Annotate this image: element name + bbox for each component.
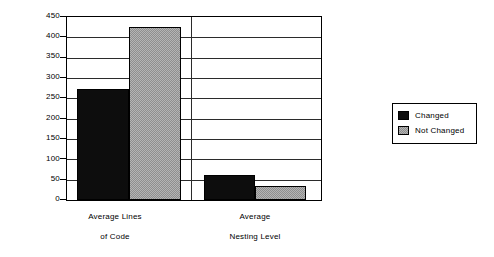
y-tick-label-250: 250	[2, 93, 60, 101]
legend-item-not-changed: Not Changed	[398, 123, 471, 138]
y-tick-label-0: 0	[2, 195, 60, 203]
x-category-label-average-nesting-level: Average Nesting Level	[190, 212, 320, 242]
x-category-label-line1: Average	[239, 212, 270, 221]
legend-item-changed: Changed	[398, 108, 471, 123]
legend: Changed Not Changed	[392, 103, 477, 144]
x-category-label-average-lines-of-code: Average Lines of Code	[50, 212, 180, 242]
legend-label-changed: Changed	[415, 111, 449, 120]
bar-not-changed-average-nesting-level	[255, 186, 306, 200]
gridline-300	[67, 78, 321, 79]
y-tick-label-150: 150	[2, 134, 60, 142]
group-divider	[191, 17, 192, 200]
x-category-label-line2: Nesting Level	[190, 232, 320, 242]
legend-swatch-changed-icon	[398, 111, 409, 120]
x-category-label-line2: of Code	[50, 232, 180, 242]
bar-chart-figure: 450 400 350 300 250 200 150 100 50 0	[0, 0, 494, 257]
bar-changed-average-nesting-level	[204, 175, 255, 200]
y-tick-label-50: 50	[2, 175, 60, 183]
gridline-400	[67, 37, 321, 38]
legend-label-not-changed: Not Changed	[415, 126, 464, 135]
bar-changed-average-lines-of-code	[77, 89, 129, 200]
y-tick-label-350: 350	[2, 52, 60, 60]
y-tick-label-450: 450	[2, 12, 60, 20]
y-tick-label-400: 400	[2, 32, 60, 40]
gridline-350	[67, 58, 321, 59]
y-tick-label-200: 200	[2, 114, 60, 122]
y-tick-label-100: 100	[2, 155, 60, 163]
plot-area	[66, 16, 322, 201]
bar-not-changed-average-lines-of-code	[129, 27, 181, 200]
y-tick-label-300: 300	[2, 73, 60, 81]
legend-swatch-not-changed-icon	[398, 126, 409, 135]
x-category-label-line1: Average Lines	[88, 212, 142, 221]
